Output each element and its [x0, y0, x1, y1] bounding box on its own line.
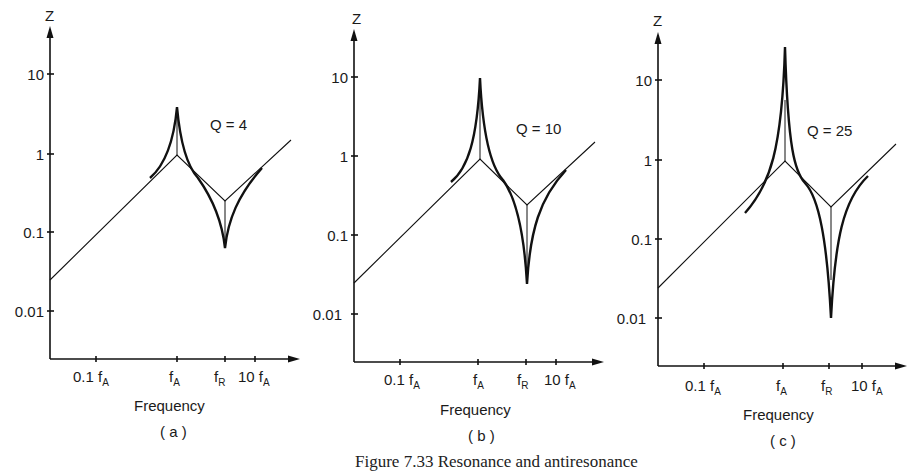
y-tick-10: 10 [4, 67, 44, 82]
y-tick-0.01: 0.01 [302, 307, 342, 322]
x-tick-10fA: 10 fA [851, 378, 883, 393]
y-tick-0.1: 0.1 [4, 225, 44, 240]
x-axis-label: Frequency [440, 402, 511, 417]
x-tick-fR: fR [821, 378, 832, 393]
panel-a: Z 10 1 0.1 0.01 Q = 4 0.1 fA fA fR 10 fA… [0, 0, 302, 463]
x-tick-fA: fA [776, 378, 787, 393]
panel-label: ( b ) [468, 428, 495, 443]
x-axis-arrow-icon [288, 356, 300, 363]
x-tick-fR: fR [214, 369, 225, 384]
y-tick-0.1: 0.1 [612, 232, 652, 247]
panel-c: Z 10 1 0.1 0.01 Q = 25 0.1 fA fA fR 10 f… [605, 0, 907, 463]
y-tick-0.01: 0.01 [606, 311, 646, 326]
y-tick-0.1: 0.1 [308, 228, 348, 243]
figure-caption: Figure 7.33 Resonance and antiresonance [355, 452, 638, 472]
panel-label: ( a ) [160, 424, 187, 439]
x-axis-label: Frequency [743, 407, 814, 422]
x-tick-fA: fA [473, 372, 484, 387]
y-tick-1: 1 [612, 153, 652, 168]
asymptote-line [354, 142, 595, 283]
y-tick-1: 1 [4, 147, 44, 162]
y-axis-arrow-icon [47, 26, 54, 38]
chart-plot-a [0, 0, 302, 463]
y-tick-10: 10 [308, 70, 348, 85]
y-axis-label: Z [653, 13, 662, 28]
y-axis-label: Z [352, 11, 361, 26]
x-axis-arrow-icon [592, 359, 604, 366]
x-tick-fA: fA [169, 369, 180, 384]
y-tick-0.01: 0.01 [4, 304, 44, 319]
x-tick-fR: fR [517, 372, 528, 387]
panel-label: ( c ) [770, 433, 796, 448]
q-label: Q = 4 [210, 117, 247, 132]
asymptote-line [50, 140, 291, 280]
q-label: Q = 25 [807, 123, 852, 138]
y-axis-arrow-icon [655, 32, 662, 44]
y-axis-label: Z [45, 8, 54, 23]
x-tick-10fA: 10 fA [544, 372, 576, 387]
x-tick-0.1fA: 0.1 fA [384, 372, 420, 387]
y-tick-10: 10 [612, 73, 652, 88]
y-axis-arrow-icon [351, 29, 358, 41]
x-axis-label: Frequency [134, 398, 205, 413]
impedance-curve [451, 78, 566, 284]
x-axis-arrow-icon [895, 363, 907, 370]
x-tick-0.1fA: 0.1 fA [685, 378, 721, 393]
chart-plot-b [304, 0, 606, 463]
asymptote-line [658, 144, 896, 288]
panel-b: Z 10 1 0.1 0.01 Q = 10 0.1 fA fA fR 10 f… [304, 0, 606, 463]
y-tick-1: 1 [308, 149, 348, 164]
x-tick-0.1fA: 0.1 fA [73, 369, 109, 384]
q-label: Q = 10 [516, 121, 561, 136]
x-tick-10fA: 10 fA [238, 369, 270, 384]
